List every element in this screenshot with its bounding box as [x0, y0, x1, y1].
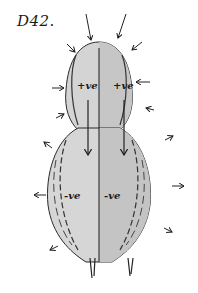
- upper-left-charge-label: +ve: [77, 80, 98, 91]
- sketch-diagram: D42. +ve +ve -ve -ve: [0, 0, 198, 293]
- lower-left-charge-label: -ve: [64, 190, 80, 201]
- body-shape-drawing: [0, 0, 198, 293]
- lower-right-charge-label: -ve: [104, 190, 120, 201]
- diagram-title: D42.: [17, 12, 55, 30]
- upper-right-charge-label: +ve: [113, 80, 134, 91]
